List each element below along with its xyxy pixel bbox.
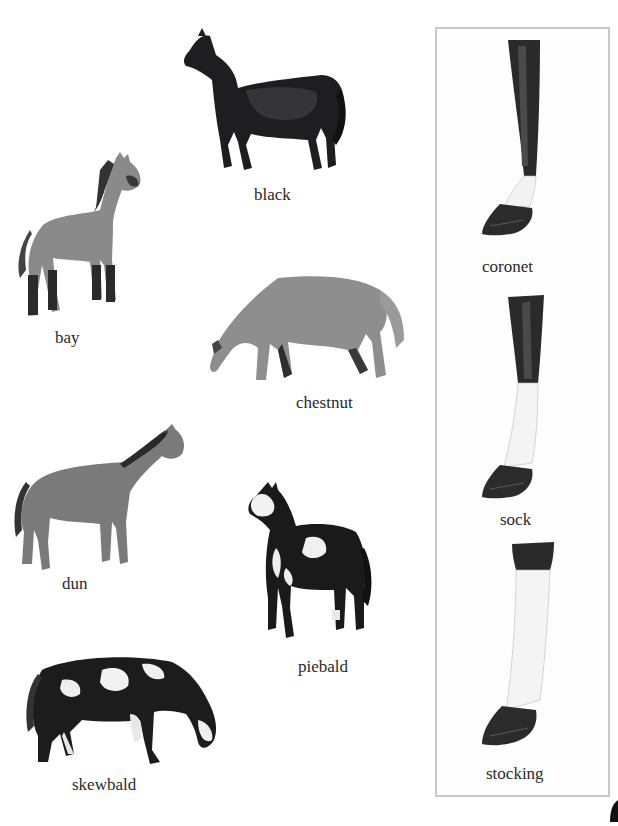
label-bay: bay	[55, 328, 80, 348]
label-dun: dun	[62, 574, 88, 594]
stocking-leg-illustration	[478, 540, 568, 759]
label-stocking: stocking	[486, 764, 544, 784]
label-coronet: coronet	[482, 257, 533, 277]
coronet-leg-illustration	[478, 36, 568, 250]
label-chestnut: chestnut	[296, 393, 353, 413]
black-horse-illustration	[176, 20, 356, 175]
piebald-horse-illustration	[246, 478, 376, 648]
chestnut-horse-illustration	[208, 270, 413, 390]
page-edge-fragment	[604, 800, 618, 822]
label-black: black	[254, 185, 291, 205]
label-piebald: piebald	[298, 657, 348, 677]
label-skewbald: skewbald	[72, 775, 136, 795]
label-sock: sock	[500, 510, 531, 530]
bay-horse-illustration	[8, 150, 148, 320]
dun-horse-illustration	[8, 422, 188, 574]
sock-leg-illustration	[478, 293, 568, 512]
skewbald-horse-illustration	[22, 650, 222, 770]
